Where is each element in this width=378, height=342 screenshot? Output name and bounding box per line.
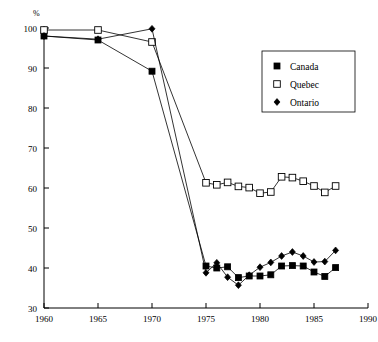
legend-label-quebec: Quebec [290, 80, 319, 90]
x-tick-label: 1970 [143, 314, 162, 324]
x-tick-label: 1985 [305, 314, 324, 324]
data-point-ontario [311, 259, 317, 266]
y-tick-label: 30 [28, 304, 38, 314]
data-point-quebec [311, 183, 318, 190]
data-point-ontario [149, 25, 155, 32]
data-point-ontario [289, 249, 295, 256]
y-tick-label: 90 [28, 64, 38, 74]
data-point-canada [311, 269, 317, 275]
data-point-quebec [235, 183, 242, 190]
data-point-quebec [214, 182, 221, 189]
legend-label-canada: Canada [290, 62, 319, 72]
data-point-quebec [289, 174, 296, 181]
data-point-ontario [268, 259, 274, 266]
data-point-quebec [278, 174, 285, 181]
data-point-canada [225, 264, 231, 270]
chart-legend[interactable]: CanadaQuebecOntario [262, 51, 355, 112]
legend-label-ontario: Ontario [290, 98, 319, 108]
legend-marker-quebec [274, 81, 281, 88]
data-point-ontario [257, 264, 263, 271]
y-tick-label: 70 [28, 144, 38, 154]
y-axis-title-group: % [33, 9, 40, 18]
x-tick-label: 1975 [197, 314, 216, 324]
x-axis-ticks: 1960196519701975198019851990 [35, 303, 378, 324]
x-tick-label: 1965 [89, 314, 108, 324]
y-axis-title: % [33, 9, 40, 18]
data-point-ontario [279, 253, 285, 260]
data-point-canada [149, 68, 155, 74]
legend-marker-canada [274, 63, 280, 69]
x-tick-label: 1990 [359, 314, 378, 324]
y-axis-ticks: 30405060708090100 [24, 24, 50, 314]
data-point-canada [235, 275, 241, 281]
data-point-quebec [246, 184, 253, 191]
data-point-canada [257, 273, 263, 279]
y-tick-label: 80 [28, 104, 38, 114]
y-tick-label: 40 [28, 264, 38, 274]
data-point-canada [268, 272, 274, 278]
data-point-canada [279, 263, 285, 269]
data-point-canada [322, 273, 328, 279]
data-point-quebec [224, 179, 231, 186]
data-point-quebec [300, 178, 307, 185]
data-point-quebec [322, 189, 329, 196]
line-chart: % 30405060708090100 19601965197019751980… [0, 0, 378, 342]
y-tick-label: 60 [28, 184, 38, 194]
data-point-canada [333, 265, 339, 271]
x-tick-label: 1960 [35, 314, 54, 324]
data-point-quebec [257, 190, 264, 197]
data-point-canada [300, 263, 306, 269]
data-point-quebec [268, 189, 275, 196]
y-tick-label: 50 [28, 224, 38, 234]
data-point-quebec [95, 27, 102, 34]
y-tick-label: 100 [24, 24, 38, 34]
data-point-canada [289, 263, 295, 269]
data-point-quebec [203, 180, 210, 187]
data-point-quebec [332, 183, 339, 190]
chart-container: % 30405060708090100 19601965197019751980… [0, 0, 378, 342]
x-tick-label: 1980 [251, 314, 270, 324]
data-point-ontario [300, 253, 306, 260]
